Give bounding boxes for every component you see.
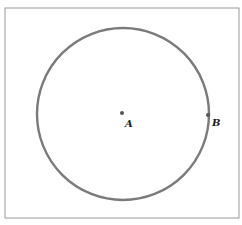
- geometry-diagram: AB: [0, 0, 242, 225]
- point-b: [206, 113, 210, 117]
- points-group: AB: [120, 111, 220, 129]
- point-label-b: B: [211, 117, 220, 128]
- point-label-a: A: [124, 118, 133, 129]
- point-a: [120, 111, 124, 115]
